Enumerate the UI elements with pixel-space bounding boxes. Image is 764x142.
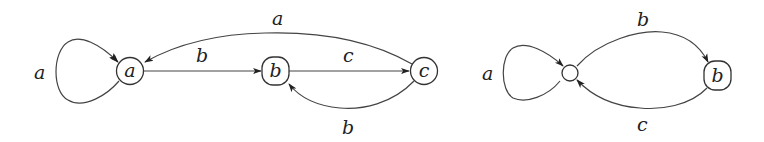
- state-b-label: b: [269, 59, 281, 81]
- edge-b-to-s: [577, 80, 707, 108]
- edge-label-c-to-a: a: [272, 7, 283, 29]
- edge-label-a-loop: a: [34, 61, 45, 83]
- edge-c-to-b: [289, 81, 414, 108]
- state-c: c: [411, 58, 438, 85]
- state-b: b: [262, 57, 289, 85]
- state-c-label: c: [419, 59, 430, 81]
- edge-label-a-to-b: b: [196, 44, 208, 66]
- edge-label-b-to-c: c: [343, 44, 354, 66]
- state-a-label: a: [124, 59, 135, 81]
- state-b-right: b: [704, 61, 731, 90]
- state-b-right-label: b: [711, 64, 723, 86]
- automata-figure: a b c a b a b c a: [0, 0, 764, 142]
- edge-a-to-a-loop-arrowed: [56, 39, 119, 103]
- state-initial: [562, 65, 578, 81]
- edge-a-to-a-loop: [56, 39, 119, 103]
- edge-s-to-b: [577, 32, 708, 66]
- right-automaton: a b c b: [482, 8, 731, 135]
- edge-label-c-to-b: b: [342, 116, 354, 138]
- edge-label-s-loop: a: [482, 62, 493, 84]
- left-automaton: a b c a b a b c: [34, 7, 438, 138]
- edge-s-to-s-loop: [503, 45, 563, 100]
- edge-label-b-to-s: c: [637, 113, 648, 135]
- state-a: a: [117, 58, 144, 85]
- edge-label-s-to-b: b: [637, 8, 649, 30]
